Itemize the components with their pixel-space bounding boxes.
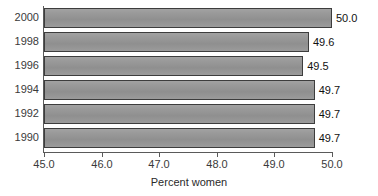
x-tick-label-50.0: 50.0 xyxy=(321,159,342,170)
x-tick-mark xyxy=(44,153,45,157)
bar-chart: 50.049.649.549.749.749.7 200019981996199… xyxy=(0,0,378,196)
bar-value-label-1998: 49.6 xyxy=(313,37,334,48)
bar-1994 xyxy=(44,80,315,100)
x-tick-label-45.0: 45.0 xyxy=(33,159,54,170)
x-tick-label-47.0: 47.0 xyxy=(148,159,169,170)
y-tick-label-1992: 1992 xyxy=(15,108,39,119)
y-tick-label-2000: 2000 xyxy=(15,12,39,23)
x-tick-mark xyxy=(102,153,103,157)
x-tick-label-46.0: 46.0 xyxy=(91,159,112,170)
bar-1990 xyxy=(44,128,315,148)
x-tick-mark xyxy=(217,153,218,157)
x-tick-label-49.0: 49.0 xyxy=(263,159,284,170)
bar-value-label-1994: 49.7 xyxy=(319,85,340,96)
bar-1998 xyxy=(44,32,309,52)
bar-1996 xyxy=(44,56,303,76)
bar-2000 xyxy=(44,8,332,28)
y-tick-label-1996: 1996 xyxy=(15,60,39,71)
plot-area: 50.049.649.549.749.749.7 200019981996199… xyxy=(0,0,378,196)
x-tick-mark xyxy=(274,153,275,157)
x-tick-label-48.0: 48.0 xyxy=(206,159,227,170)
y-tick-label-1998: 1998 xyxy=(15,36,39,47)
bar-1992 xyxy=(44,104,315,124)
y-tick-label-1990: 1990 xyxy=(15,132,39,143)
x-axis-title: Percent women xyxy=(0,177,378,188)
x-tick-mark xyxy=(332,153,333,157)
bar-value-label-1996: 49.5 xyxy=(307,61,328,72)
bar-value-label-2000: 50.0 xyxy=(336,13,357,24)
y-tick-label-1994: 1994 xyxy=(15,84,39,95)
bar-value-label-1990: 49.7 xyxy=(319,133,340,144)
x-tick-mark xyxy=(159,153,160,157)
bar-value-label-1992: 49.7 xyxy=(319,109,340,120)
x-axis-line xyxy=(43,152,333,153)
